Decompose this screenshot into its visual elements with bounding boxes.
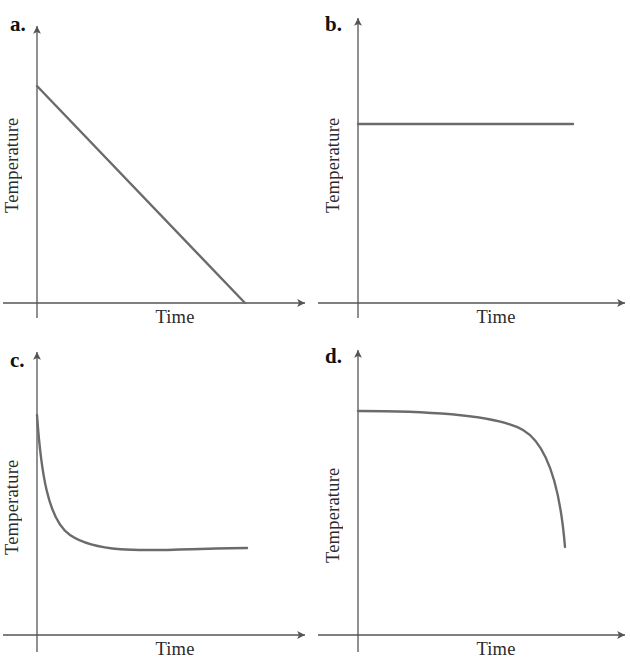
y-axis-label-c: Temperature: [2, 432, 28, 582]
x-axis-label-c: Time: [90, 639, 260, 660]
x-axis-label-a: Time: [90, 307, 260, 328]
panel-d: d. Temperature Time: [315, 332, 630, 664]
y-axis-label-a: Temperature: [2, 90, 28, 240]
panel-c: c. Temperature Time: [0, 332, 315, 664]
panel-label-a: a.: [10, 14, 26, 35]
panel-d-plot: [315, 332, 630, 664]
panel-b-plot: [315, 0, 630, 332]
y-axis-label-b: Temperature: [323, 90, 349, 240]
panel-c-plot: [0, 332, 315, 664]
curve-c: [37, 415, 247, 550]
curve-d: [358, 411, 565, 547]
x-axis-label-d: Time: [411, 639, 581, 660]
y-axis-label-d: Temperature: [323, 440, 349, 590]
panel-label-b: b.: [325, 14, 342, 35]
figure-root: a. Temperature Time b. Temperature Time: [0, 0, 630, 665]
x-axis-label-b: Time: [411, 307, 581, 328]
panel-b: b. Temperature Time: [315, 0, 630, 332]
panel-label-c: c.: [10, 350, 25, 371]
curve-a: [37, 86, 245, 303]
panel-a-plot: [0, 0, 315, 332]
panel-label-d: d.: [325, 346, 342, 367]
panel-a: a. Temperature Time: [0, 0, 315, 332]
